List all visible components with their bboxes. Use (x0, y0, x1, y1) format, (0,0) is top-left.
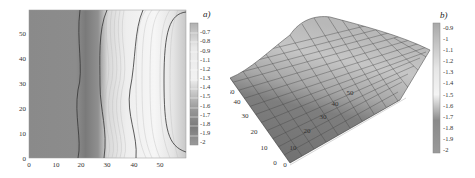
x-tick: 10 (53, 161, 61, 169)
colorbar-tick: -1.4 (200, 83, 211, 90)
y-tick: 40 (19, 55, 27, 63)
colorbar-tick: -1.8 (443, 124, 453, 131)
colorbar-tick: -1.3 (200, 74, 210, 81)
surface-plot: 0 10 20 30 40 50 0 10 20 30 40 50 -0.9 -… (230, 0, 475, 178)
x-tick: 50 (230, 88, 235, 96)
x-tick: 40 (234, 98, 242, 106)
y-tick: 0 (283, 161, 287, 169)
y-tick: 40 (332, 100, 340, 108)
colorbar-tick: -1.4 (443, 79, 454, 86)
colorbar-tick: -1.9 (200, 129, 210, 136)
colorbar-tick: -0.8 (200, 37, 210, 44)
colorbar-tick: -1.3 (443, 68, 453, 75)
colorbar-tick: -1.6 (443, 102, 454, 109)
x-tick: 50 (157, 161, 165, 169)
x-tick: 40 (131, 161, 139, 169)
y-tick: 20 (19, 105, 27, 113)
contour-plot-panel: 0 10 20 30 40 50 0 10 20 30 40 50 -0.7 -… (0, 0, 230, 178)
y-tick: 50 (347, 89, 355, 97)
colorbar-tick: -2 (443, 146, 448, 153)
colorbar-tick: -1.2 (200, 65, 210, 72)
x-tick: 30 (104, 161, 112, 169)
colorbar-tick: -0.7 (200, 28, 211, 35)
x-tick: 20 (78, 161, 86, 169)
y-tick: 50 (19, 30, 27, 38)
colorbar-tick: -1.9 (443, 135, 453, 142)
contour-plot: 0 10 20 30 40 50 0 10 20 30 40 50 -0.7 -… (0, 0, 230, 178)
x-tick: 0 (27, 161, 31, 169)
surface-plot-panel: 0 10 20 30 40 50 0 10 20 30 40 50 -0.9 -… (230, 0, 475, 178)
colorbar-b (433, 23, 440, 153)
y-tick: 20 (304, 127, 312, 135)
colorbar-tick: -2 (200, 138, 205, 145)
y-tick: 30 (320, 113, 328, 121)
colorbar-tick: -1.7 (200, 111, 211, 118)
colorbar-tick: -1.5 (443, 91, 453, 98)
colorbar-tick: -1.2 (443, 57, 453, 64)
colorbar-tick: -1.7 (443, 113, 454, 120)
colorbar-tick: -1.6 (200, 102, 211, 109)
x-tick: 30 (242, 112, 250, 120)
x-tick: 10 (261, 144, 269, 152)
colorbar-tick: -1 (443, 35, 448, 42)
x-tick: 20 (251, 128, 259, 136)
colorbar-tick: -1.8 (200, 120, 210, 127)
y-tick: 0 (23, 155, 27, 163)
colorbar-tick: -1.5 (200, 92, 210, 99)
colorbar-tick: -1.1 (200, 56, 210, 63)
colorbar-tick: -1.1 (443, 46, 453, 53)
y-tick: 30 (19, 80, 27, 88)
x-tick: 0 (273, 159, 277, 167)
y-tick: 10 (19, 130, 27, 138)
y-tick: 10 (290, 144, 298, 152)
panel-label-a: a) (203, 9, 211, 19)
colorbar-tick: -0.9 (200, 47, 210, 54)
colorbar-a (190, 23, 198, 145)
panel-label-b: b) (440, 10, 448, 20)
colorbar-tick: -0.9 (443, 24, 453, 31)
